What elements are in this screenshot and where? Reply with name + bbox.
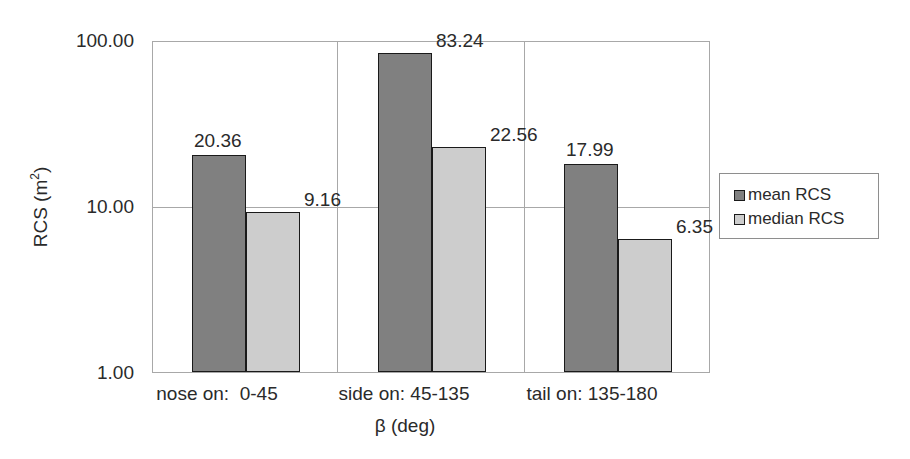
y-tick-label-1: 1.00 bbox=[44, 363, 134, 382]
y-axis-title-exponent: 2 bbox=[28, 173, 42, 180]
y-axis-title-tail: ) bbox=[30, 167, 51, 173]
chart-legend: mean RCS median RCS bbox=[719, 173, 879, 239]
chart-figure: RCS (m2) 100.00 10.00 1.00 20.36 9.16 83… bbox=[0, 0, 910, 459]
legend-swatch-mean-icon bbox=[734, 190, 745, 201]
plot-area: 20.36 9.16 83.24 22.56 17.99 6.35 bbox=[152, 41, 710, 373]
x-tick-label-tail-on: tail on: 135-180 bbox=[498, 383, 686, 405]
legend-label-mean-rcs: mean RCS bbox=[748, 185, 831, 205]
value-label-median-side-on: 22.56 bbox=[490, 125, 538, 144]
legend-item-median-rcs: median RCS bbox=[734, 207, 878, 231]
category-separator-2 bbox=[524, 42, 525, 372]
bar-mean-tail-on bbox=[564, 164, 618, 372]
y-tick-label-10: 10.00 bbox=[44, 197, 134, 216]
x-axis-title: β (deg) bbox=[311, 415, 499, 437]
y-tick-label-100: 100.00 bbox=[44, 31, 134, 50]
bar-mean-side-on bbox=[378, 53, 432, 372]
x-tick-label-nose-on: nose on: 0-45 bbox=[124, 383, 310, 405]
value-label-mean-side-on: 83.24 bbox=[436, 31, 484, 50]
value-label-mean-tail-on: 17.99 bbox=[566, 140, 614, 159]
bar-median-nose-on bbox=[246, 212, 300, 372]
legend-swatch-median-icon bbox=[734, 214, 745, 225]
legend-item-mean-rcs: mean RCS bbox=[734, 183, 878, 207]
legend-label-median-rcs: median RCS bbox=[748, 209, 844, 229]
bar-median-tail-on bbox=[618, 239, 672, 372]
bar-mean-nose-on bbox=[192, 155, 246, 372]
value-label-mean-nose-on: 20.36 bbox=[194, 131, 242, 150]
x-tick-label-side-on: side on: 45-135 bbox=[310, 383, 498, 405]
value-label-median-nose-on: 9.16 bbox=[304, 190, 341, 209]
value-label-median-tail-on: 6.35 bbox=[676, 217, 713, 236]
bar-median-side-on bbox=[432, 147, 486, 372]
